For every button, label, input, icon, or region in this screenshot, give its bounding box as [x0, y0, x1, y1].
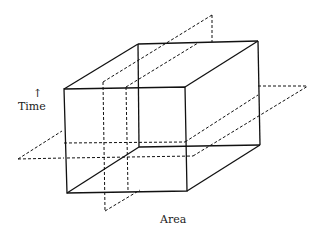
horizontal-plane — [18, 86, 308, 159]
area-axis-label: Area — [160, 213, 186, 226]
time-axis-label: Time — [18, 100, 46, 113]
vertical-plane — [103, 15, 212, 211]
time-arrow-icon: ↑ — [33, 87, 42, 100]
cube-diagram — [0, 0, 324, 235]
cube-edges — [64, 41, 260, 193]
